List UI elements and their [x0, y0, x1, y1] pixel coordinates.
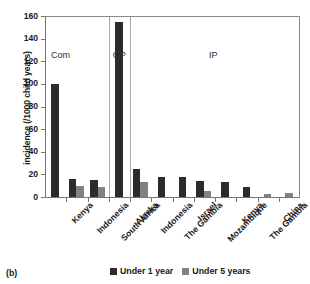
legend-item: Under 1 year	[110, 266, 173, 276]
y-tick: 0	[41, 197, 46, 198]
bar	[243, 187, 251, 197]
y-tick-label: 100	[24, 78, 38, 88]
plot-area: 020406080100120140160 ComOPIP	[45, 16, 300, 198]
legend-label: Under 5 years	[192, 266, 250, 276]
y-tick: 60	[41, 129, 46, 130]
legend-label: Under 1 year	[120, 266, 173, 276]
bar	[69, 179, 77, 197]
y-tick-label: 120	[24, 56, 38, 66]
group-divider	[130, 17, 131, 197]
bar	[133, 169, 141, 197]
axis-right-spine	[299, 16, 300, 198]
panel-label: (b)	[6, 268, 17, 278]
group-label-com: Com	[51, 50, 70, 60]
y-tick: 140	[41, 39, 46, 40]
bar	[115, 22, 123, 197]
y-tick-label: 160	[24, 11, 38, 21]
legend-swatch	[110, 268, 117, 275]
y-tick: 160	[41, 16, 46, 17]
y-tick-label: 0	[33, 192, 38, 202]
figure-panel-b: incidence (/1000 child years) 0204060801…	[0, 0, 310, 284]
bar	[158, 177, 166, 197]
bar	[179, 177, 187, 197]
x-tick-label: Kenya	[69, 200, 94, 225]
bar	[221, 182, 229, 197]
chart-legend: Under 1 yearUnder 5 years	[110, 266, 251, 276]
legend-swatch	[182, 268, 189, 275]
y-tick-label: 40	[28, 146, 38, 156]
x-axis-labels: KenyaIndonesiaSouth AfricaAlaskaIndonesi…	[45, 200, 310, 258]
y-tick-label: 60	[28, 124, 38, 134]
legend-item: Under 5 years	[182, 266, 250, 276]
bar	[98, 187, 106, 197]
group-label-ip: IP	[209, 50, 218, 60]
y-tick: 80	[41, 107, 46, 108]
y-tick-label: 80	[28, 101, 38, 111]
y-tick-label: 20	[28, 169, 38, 179]
bar	[204, 191, 212, 197]
bar	[140, 182, 148, 197]
bar	[264, 194, 272, 197]
axis-top-spine	[45, 16, 300, 17]
y-tick: 100	[41, 84, 46, 85]
y-tick-label: 140	[24, 33, 38, 43]
bar	[285, 193, 293, 197]
group-divider	[109, 17, 110, 197]
bar	[76, 186, 84, 197]
bar	[51, 84, 59, 197]
y-tick: 40	[41, 152, 46, 153]
y-tick: 20	[41, 174, 46, 175]
bar	[196, 181, 204, 197]
y-tick: 120	[41, 61, 46, 62]
bar	[90, 180, 98, 197]
x-tick-label: Alaska	[133, 200, 160, 227]
